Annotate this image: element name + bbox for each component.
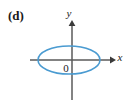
y-axis-label: y (66, 7, 72, 19)
origin-label: 0 (63, 62, 69, 74)
x-axis-label: x (117, 51, 123, 63)
x-axis-arrowhead (110, 57, 116, 64)
figure-panel: (d) y x 0 (0, 0, 134, 110)
coordinate-plot: y x 0 (0, 0, 134, 110)
axes-group (30, 20, 116, 100)
y-axis-arrowhead (69, 20, 76, 26)
